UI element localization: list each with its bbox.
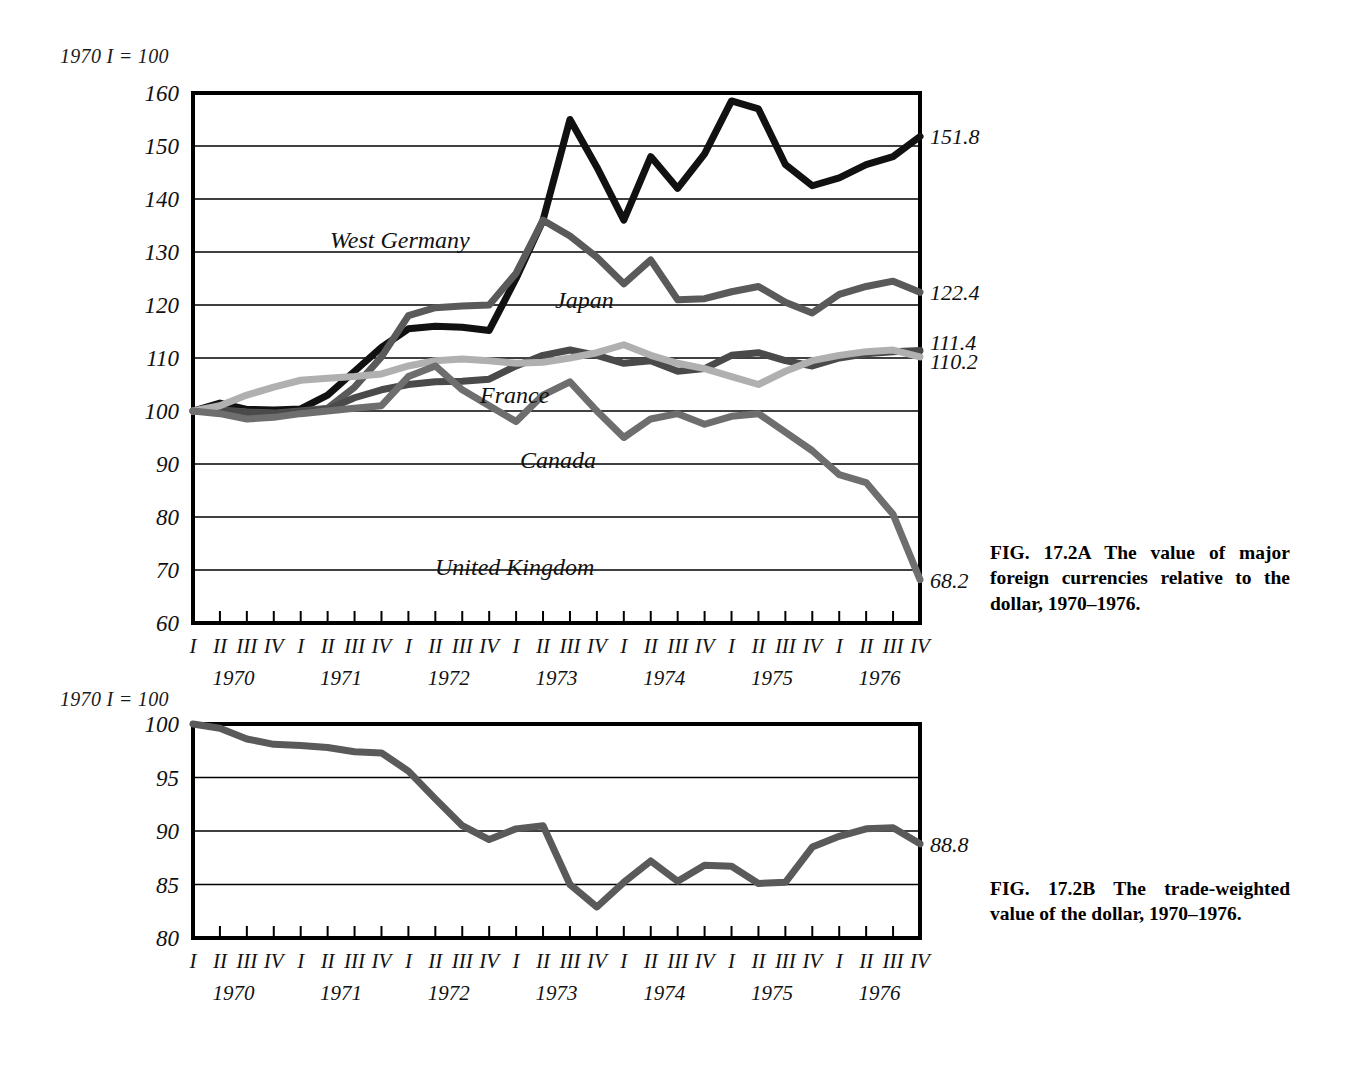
x-axis-year-label: 1976: [859, 666, 902, 690]
x-axis-quarter-label: II: [643, 634, 659, 658]
x-axis-quarter-label: III: [451, 949, 474, 973]
x-axis-quarter-label: I: [512, 634, 521, 658]
chart-a-svg: 16015014013012011010090807060IIIIIIIVIII…: [0, 70, 990, 690]
x-axis-quarter-label: III: [666, 634, 689, 658]
x-axis-quarter-label: III: [235, 949, 258, 973]
x-axis-quarter-label: IV: [801, 634, 824, 658]
series-label-japan: Japan: [555, 287, 614, 313]
end-value-label-dollar: 88.8: [930, 832, 969, 857]
x-axis-quarter-label: II: [427, 634, 443, 658]
y-axis-tick-label: 120: [145, 293, 180, 318]
x-axis-quarter-label: III: [558, 949, 581, 973]
x-axis-quarter-label: I: [727, 634, 736, 658]
chart-fig-17-2a: 16015014013012011010090807060IIIIIIIVIII…: [0, 70, 990, 690]
x-axis-year-label: 1976: [859, 981, 902, 1005]
x-axis-year-label: 1970: [212, 981, 255, 1005]
x-axis-quarter-label: I: [404, 634, 413, 658]
index-note-a: 1970 I = 100: [60, 45, 169, 68]
x-axis-quarter-label: I: [619, 949, 628, 973]
x-axis-year-label: 1973: [536, 981, 578, 1005]
end-value-label-west-germany: 151.8: [930, 124, 980, 149]
y-axis-tick-label: 130: [145, 240, 180, 265]
figure-caption-a: FIG. 17.2A The value of major foreign cu…: [990, 540, 1290, 616]
x-axis-quarter-label: III: [882, 949, 905, 973]
x-axis-quarter-label: I: [835, 634, 844, 658]
x-axis-quarter-label: II: [750, 634, 766, 658]
y-axis-tick-label: 150: [145, 134, 180, 159]
x-axis-quarter-label: IV: [263, 949, 286, 973]
x-axis-quarter-label: IV: [478, 949, 501, 973]
x-axis-quarter-label: IV: [263, 634, 286, 658]
figure-caption-b: FIG. 17.2B The trade-weighted value of t…: [990, 876, 1290, 927]
x-axis-quarter-label: II: [643, 949, 659, 973]
end-value-label-japan: 122.4: [930, 280, 980, 305]
x-axis-quarter-label: IV: [478, 634, 501, 658]
y-axis-tick-label: 80: [156, 505, 180, 530]
x-axis-quarter-label: IV: [694, 949, 717, 973]
y-axis-tick-label: 160: [145, 81, 180, 106]
x-axis-year-label: 1973: [536, 666, 578, 690]
x-axis-quarter-label: II: [427, 949, 443, 973]
x-axis-quarter-label: IV: [586, 634, 609, 658]
x-axis-quarter-label: IV: [909, 949, 932, 973]
x-axis-quarter-label: IV: [694, 634, 717, 658]
end-value-label-canada: 110.2: [930, 349, 978, 374]
x-axis-quarter-label: I: [189, 634, 198, 658]
y-axis-tick-label: 100: [145, 399, 180, 424]
x-axis-quarter-label: II: [212, 949, 228, 973]
y-axis-tick-label: 90: [156, 452, 180, 477]
x-axis-quarter-label: I: [835, 949, 844, 973]
y-axis-tick-label: 80: [156, 926, 180, 951]
y-axis-tick-label: 70: [156, 558, 180, 583]
series-label-france: France: [479, 382, 550, 408]
x-axis-year-label: 1974: [643, 666, 686, 690]
chart-b-svg: 10095908580IIIIIIIVIIIIIIIVIIIIIIIVIIIII…: [0, 706, 990, 1006]
x-axis-quarter-label: II: [535, 949, 551, 973]
x-axis-quarter-label: I: [727, 949, 736, 973]
x-axis-year-label: 1971: [320, 981, 362, 1005]
x-axis-quarter-label: III: [558, 634, 581, 658]
x-axis-year-label: 1971: [320, 666, 362, 690]
x-axis-quarter-label: IV: [909, 634, 932, 658]
end-value-label-united-kingdom: 68.2: [930, 568, 969, 593]
series-label-west-germany: West Germany: [330, 227, 470, 253]
x-axis-year-label: 1975: [751, 666, 793, 690]
x-axis-year-label: 1975: [751, 981, 793, 1005]
x-axis-quarter-label: II: [858, 634, 874, 658]
y-axis-tick-label: 85: [156, 873, 179, 898]
x-axis-quarter-label: III: [774, 634, 797, 658]
x-axis-quarter-label: II: [320, 634, 336, 658]
chart-fig-17-2b: 10095908580IIIIIIIVIIIIIIIVIIIIIIIVIIIII…: [0, 706, 990, 1006]
x-axis-quarter-label: IV: [371, 634, 394, 658]
y-axis-tick-label: 60: [156, 611, 180, 636]
y-axis-tick-label: 140: [145, 187, 180, 212]
x-axis-quarter-label: IV: [586, 949, 609, 973]
x-axis-year-label: 1972: [428, 666, 471, 690]
x-axis-year-label: 1972: [428, 981, 471, 1005]
x-axis-quarter-label: III: [774, 949, 797, 973]
x-axis-quarter-label: III: [235, 634, 258, 658]
x-axis-year-label: 1974: [643, 981, 686, 1005]
x-axis-quarter-label: III: [343, 634, 366, 658]
x-axis-quarter-label: II: [750, 949, 766, 973]
x-axis-quarter-label: I: [619, 634, 628, 658]
x-axis-quarter-label: I: [404, 949, 413, 973]
figure-page: 1970 I = 100 160150140130120110100908070…: [0, 0, 1350, 1069]
y-axis-tick-label: 90: [156, 819, 180, 844]
x-axis-quarter-label: IV: [371, 949, 394, 973]
y-axis-tick-label: 110: [146, 346, 179, 371]
x-axis-quarter-label: I: [296, 949, 305, 973]
y-axis-tick-label: 95: [156, 766, 179, 791]
x-axis-quarter-label: III: [666, 949, 689, 973]
y-axis-tick-label: 100: [145, 712, 180, 737]
x-axis-quarter-label: III: [882, 634, 905, 658]
x-axis-quarter-label: I: [296, 634, 305, 658]
x-axis-quarter-label: II: [535, 634, 551, 658]
x-axis-quarter-label: IV: [801, 949, 824, 973]
x-axis-quarter-label: III: [451, 634, 474, 658]
x-axis-year-label: 1970: [212, 666, 255, 690]
x-axis-quarter-label: II: [212, 634, 228, 658]
x-axis-quarter-label: I: [512, 949, 521, 973]
series-label-canada: Canada: [520, 447, 596, 473]
series-label-united-kingdom: United Kingdom: [435, 554, 594, 580]
